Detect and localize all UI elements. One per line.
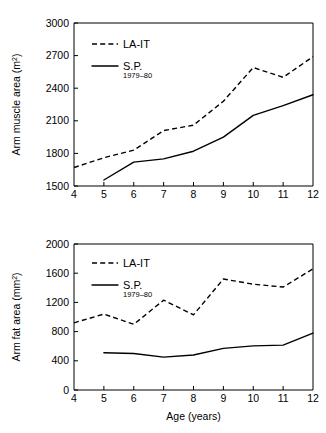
y-tick-label: 2100 (46, 114, 70, 126)
x-tick-label: 9 (220, 392, 226, 404)
x-tick-label: 12 (307, 392, 319, 404)
arm-fat-area-plot: 0400800120016002000456789101112Arm fat a… (0, 215, 326, 433)
x-tick-label: 7 (161, 188, 167, 200)
y-tick-label: 1600 (46, 267, 70, 279)
x-tick-label: 11 (278, 392, 289, 404)
y-tick-label: 1200 (46, 296, 70, 308)
svg-text:Arm fat area (mm2): Arm fat area (mm2) (10, 272, 22, 361)
y-tick-label: 2400 (46, 82, 70, 94)
x-tick-label: 5 (101, 188, 107, 200)
y-tick-label: 2000 (46, 238, 70, 250)
x-tick-label: 8 (191, 188, 197, 200)
x-tick-label: 10 (247, 188, 259, 200)
figure-page: 150018002100240027003000456789101112Arm … (0, 0, 326, 433)
x-axis-title: Age (years) (166, 410, 220, 422)
chart-arm-muscle-area: 150018002100240027003000456789101112Arm … (0, 0, 326, 215)
y-tick-label: 800 (51, 325, 69, 337)
y-tick-label: 2700 (46, 49, 70, 61)
x-tick-label: 10 (247, 392, 259, 404)
y-axis-title: Arm fat area (mm2) (10, 272, 22, 361)
x-tick-label: 8 (191, 392, 197, 404)
y-tick-label: 1500 (46, 180, 70, 192)
legend-label: LA-IT (123, 257, 150, 269)
y-tick-label: 1800 (46, 147, 70, 159)
x-tick-label: 6 (131, 392, 137, 404)
y-tick-label: 400 (51, 354, 69, 366)
legend: LA-ITS.P.1979–80 (92, 38, 152, 80)
data-series-la-it (74, 269, 313, 324)
x-tick-label: 6 (131, 188, 137, 200)
y-axis-title: Arm muscle area (m2) (10, 54, 22, 156)
legend: LA-ITS.P.1979–80 (92, 257, 152, 299)
chart-arm-fat-area: 0400800120016002000456789101112Arm fat a… (0, 215, 326, 433)
x-tick-label: 12 (307, 188, 319, 200)
data-series-sp (104, 95, 313, 180)
x-tick-label: 11 (278, 188, 289, 200)
plot-frame (74, 244, 313, 390)
legend-sublabel: 1979–80 (123, 71, 152, 80)
svg-text:Arm muscle area (m2): Arm muscle area (m2) (10, 54, 22, 156)
y-tick-label: 3000 (46, 17, 70, 29)
legend-sublabel: 1979–80 (123, 290, 152, 299)
x-tick-label: 4 (71, 188, 77, 200)
x-tick-label: 5 (101, 392, 107, 404)
data-series-sp (104, 333, 313, 357)
x-tick-label: 7 (161, 392, 167, 404)
plot-frame (74, 23, 313, 186)
x-tick-label: 9 (220, 188, 226, 200)
y-tick-label: 0 (63, 384, 69, 396)
arm-muscle-area-plot: 150018002100240027003000456789101112Arm … (0, 0, 326, 215)
legend-label: LA-IT (123, 38, 150, 50)
x-tick-label: 4 (71, 392, 77, 404)
